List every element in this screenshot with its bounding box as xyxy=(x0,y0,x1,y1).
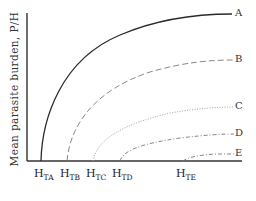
x-tick-hta: HTA xyxy=(34,167,54,182)
curve-label-e: E xyxy=(235,147,242,158)
x-tick-htc: HTC xyxy=(86,167,106,182)
curve-d xyxy=(120,134,234,161)
x-tick-hte: HTE xyxy=(176,167,196,182)
x-tick-htb: HTB xyxy=(60,167,80,182)
y-axis-label: Mean parasite burden, P/H xyxy=(8,4,22,174)
curve-b xyxy=(67,60,234,161)
curve-e xyxy=(183,154,234,161)
curve-label-c: C xyxy=(235,100,243,111)
x-tick-htd: HTD xyxy=(112,167,133,182)
curve-label-b: B xyxy=(235,53,242,64)
curve-c xyxy=(93,107,234,161)
curve-a xyxy=(41,14,232,161)
curve-label-a: A xyxy=(235,7,242,18)
curve-label-d: D xyxy=(235,127,243,138)
